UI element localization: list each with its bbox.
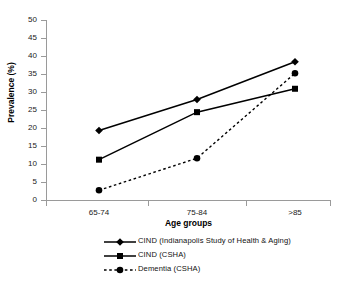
diamond-marker	[104, 234, 136, 246]
diamond-data-marker	[95, 127, 103, 135]
legend-label: CIND (Indianapolis Study of Health & Agi…	[138, 236, 291, 245]
square-data-marker	[194, 109, 200, 115]
square-marker	[104, 248, 136, 260]
circle-data-marker	[292, 70, 299, 77]
circle-data-marker	[194, 155, 201, 162]
circle-data-marker	[117, 267, 124, 274]
legend-item[interactable]: Dementia (CSHA)	[104, 261, 344, 275]
square-data-marker	[117, 253, 123, 259]
circle-data-marker	[96, 187, 103, 194]
series-3	[96, 70, 299, 194]
diamond-data-marker	[116, 238, 124, 246]
chart-legend: CIND (Indianapolis Study of Health & Agi…	[104, 233, 344, 275]
diamond-data-marker	[193, 96, 201, 104]
prevalence-line-chart: 05101520253035404550 65-7475-84>85 Preva…	[0, 0, 350, 288]
legend-item[interactable]: CIND (Indianapolis Study of Health & Agi…	[104, 233, 344, 247]
legend-label: CIND (CSHA)	[138, 250, 186, 259]
circle-marker	[104, 262, 136, 274]
legend-item[interactable]: CIND (CSHA)	[104, 247, 344, 261]
diamond-data-marker	[291, 58, 299, 66]
series-line	[99, 73, 295, 190]
square-data-marker	[292, 86, 298, 92]
square-data-marker	[96, 157, 102, 163]
legend-label: Dementia (CSHA)	[138, 264, 200, 273]
